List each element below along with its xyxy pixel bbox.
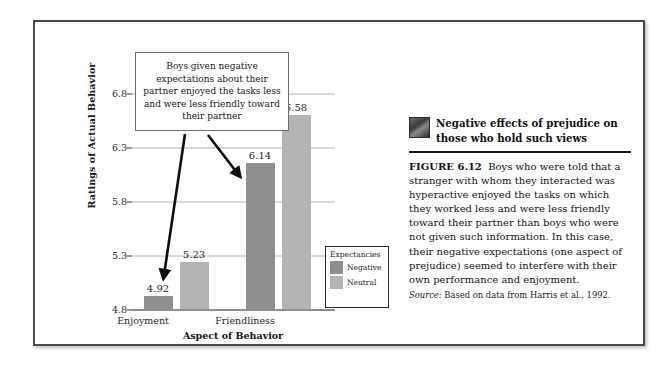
caption-body-text: Boys who were told that a stranger with … <box>409 161 622 285</box>
caption-column: Negative effects of prejudice on those w… <box>409 116 631 301</box>
legend-swatch-negative <box>330 261 343 274</box>
chart-legend: Expectancies Negative Neutral <box>325 246 389 308</box>
bar-value-4.92: 4.92 <box>138 283 178 294</box>
y-axis-tick-labels: 6.8 6.3 5.8 5.3 4.8 <box>95 22 127 311</box>
photo-thumbnail-icon <box>409 117 430 138</box>
x-tick-label-friendliness: Friendliness <box>185 315 305 326</box>
source-text: Based on data from Harris et al., 1992. <box>444 290 610 300</box>
bar-friendliness-negative <box>246 163 275 309</box>
callout-line-2: expectations about their <box>156 74 267 84</box>
caption-divider <box>409 151 631 153</box>
x-axis-title: Aspect of Behavior <box>131 330 335 341</box>
callout-line-4: and were less friendly toward <box>144 99 280 109</box>
y-tick-mark-4.8 <box>125 309 132 311</box>
legend-swatch-neutral <box>330 276 343 289</box>
callout-line-3: partner enjoyed the tasks less <box>143 86 280 96</box>
y-tick-mark-6.8 <box>125 93 132 95</box>
legend-label-negative: Negative <box>347 263 381 272</box>
y-tick-mark-6.3 <box>125 147 132 149</box>
legend-label-neutral: Neutral <box>347 278 376 287</box>
bar-enjoyment-negative <box>144 296 173 309</box>
caption-source: Source: Based on data from Harris et al.… <box>409 290 631 301</box>
figure-frame: Ratings of Actual Behavior 6.8 6.3 5.8 5… <box>33 20 645 346</box>
bar-chart: Ratings of Actual Behavior 6.8 6.3 5.8 5… <box>35 22 395 344</box>
legend-item-negative: Negative <box>330 261 384 274</box>
y-tick-mark-5.3 <box>125 255 132 257</box>
annotation-callout: Boys given negative expectations about t… <box>135 52 289 131</box>
annotation-callout-text: Boys given negative expectations about t… <box>138 60 285 123</box>
y-tick-mark-5.8 <box>125 201 132 203</box>
bar-value-5.23: 5.23 <box>174 249 214 260</box>
caption-header: Negative effects of prejudice on those w… <box>409 116 631 145</box>
legend-item-neutral: Neutral <box>330 276 384 289</box>
bar-enjoyment-neutral <box>180 262 209 309</box>
callout-line-1: Boys given negative <box>166 61 257 71</box>
bar-friendliness-neutral <box>282 115 311 309</box>
bar-value-6.14: 6.14 <box>240 150 280 161</box>
x-axis-baseline <box>131 309 335 311</box>
caption-body: FIGURE 6.12 Boys who were told that a st… <box>409 160 631 287</box>
caption-heading: Negative effects of prejudice on those w… <box>436 116 631 145</box>
legend-title: Expectancies <box>330 250 384 259</box>
source-label: Source: <box>409 290 442 300</box>
callout-line-5: their partner <box>182 111 241 121</box>
figure-label: FIGURE 6.12 <box>409 161 482 172</box>
